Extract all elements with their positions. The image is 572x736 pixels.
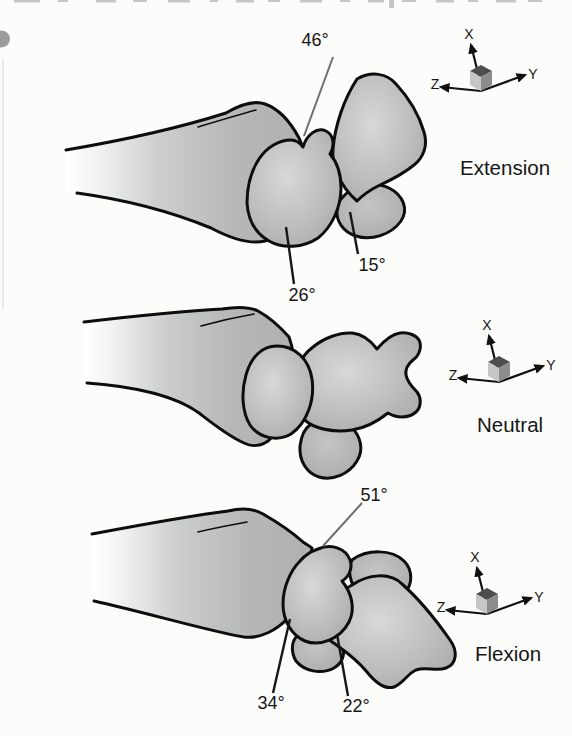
y-axis-label: Y — [546, 357, 556, 373]
angle-label-51: 51° — [360, 485, 387, 505]
wrist-position-figure: 46° 26° 15° Extension X Y Z Neutral — [0, 0, 572, 736]
angle-label-15: 15° — [358, 255, 385, 275]
z-axis-label: Z — [449, 367, 458, 383]
x-axis-label: X — [464, 26, 474, 42]
axis-triad-extension: X Y Z — [431, 26, 539, 92]
leader-51 — [323, 503, 362, 546]
leader-46 — [304, 57, 333, 136]
figure-page: 46° 26° 15° Extension X Y Z Neutral — [0, 0, 572, 736]
panel-label-flexion: Flexion — [475, 642, 541, 665]
angle-label-26: 26° — [288, 285, 315, 305]
panel-flexion: 51° 34° 22° Flexion X Y Z — [92, 485, 544, 716]
angle-label-34: 34° — [257, 693, 284, 713]
lunate-bone — [243, 346, 313, 438]
angle-label-46: 46° — [301, 30, 328, 50]
z-axis-label: Z — [431, 76, 440, 92]
z-axis-label: Z — [437, 599, 446, 615]
y-axis-label: Y — [534, 589, 544, 605]
capitate-bone — [333, 74, 426, 201]
y-axis-label: Y — [528, 66, 538, 82]
panel-label-extension: Extension — [460, 156, 550, 179]
panel-neutral: Neutral X Y Z — [84, 307, 556, 478]
axis-triad-flexion: X Y Z — [437, 549, 545, 615]
x-axis-label: X — [482, 317, 492, 333]
left-edge-dot — [0, 31, 10, 48]
panel-label-neutral: Neutral — [477, 413, 543, 436]
axis-triad-neutral: X Y Z — [449, 317, 557, 383]
panel-extension: 46° 26° 15° Extension X Y Z — [66, 26, 550, 305]
angle-label-22: 22° — [342, 696, 369, 716]
x-axis-label: X — [470, 549, 480, 565]
